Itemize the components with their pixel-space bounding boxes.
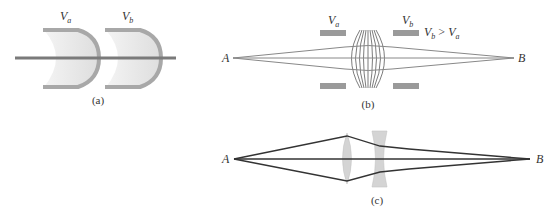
panel-b: A B Va Vb Vb > Va (b) <box>221 13 526 111</box>
caption-c: (c) <box>371 194 384 207</box>
equipotential-lines <box>352 30 385 88</box>
point-a-b: A <box>221 51 230 65</box>
plate-a-top <box>320 30 346 36</box>
label-va-b: Va <box>328 13 339 29</box>
point-b-b: B <box>518 51 526 65</box>
caption-b: (b) <box>362 98 375 111</box>
panel-a: Va Vb (a) <box>15 9 176 107</box>
potential-condition: Vb > Va <box>424 25 459 41</box>
plate-b-bottom <box>393 83 419 89</box>
label-vb: Vb <box>122 9 133 25</box>
electron-rays <box>233 46 514 71</box>
panel-c: A B (c) <box>221 131 544 207</box>
point-b-c: B <box>536 152 544 166</box>
caption-a: (a) <box>92 94 105 107</box>
label-va: Va <box>60 9 71 25</box>
label-vb-b: Vb <box>402 13 413 29</box>
electrostatic-lens-diagram: Va Vb (a) A B Va Vb <box>0 0 553 216</box>
plate-b-top <box>393 30 419 36</box>
plate-a-bottom <box>320 83 346 89</box>
point-a-c: A <box>221 152 230 166</box>
